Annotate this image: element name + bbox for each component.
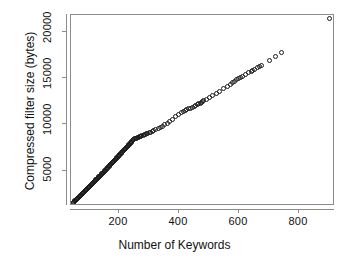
x-axis-title: Number of Keywords	[0, 238, 349, 252]
y-tick-mark	[62, 123, 66, 124]
plot-panel	[70, 14, 334, 205]
data-point	[259, 63, 264, 68]
x-tick-label: 800	[278, 215, 318, 227]
x-tick-label: 600	[218, 215, 258, 227]
data-point	[273, 54, 278, 59]
x-axis-line	[70, 209, 334, 210]
y-axis-line	[66, 14, 67, 205]
y-tick-label: 10000	[41, 109, 53, 135]
x-tick-label: 400	[158, 215, 198, 227]
data-points-layer	[71, 15, 333, 204]
data-point	[267, 58, 272, 63]
data-point	[327, 16, 332, 21]
x-tick-mark	[118, 209, 119, 213]
y-tick-label: 5000	[41, 156, 53, 182]
y-tick-label: 15000	[41, 63, 53, 89]
y-tick-label: 20000	[41, 17, 53, 43]
data-point	[279, 50, 284, 55]
x-tick-mark	[178, 209, 179, 213]
y-axis-title: Compressed filter size (bytes)	[23, 1, 37, 221]
x-tick-mark	[298, 209, 299, 213]
x-tick-label: 200	[98, 215, 138, 227]
y-tick-mark	[62, 170, 66, 171]
scatter-plot-figure: Compressed filter size (bytes) 500010000…	[0, 0, 349, 267]
y-tick-mark	[62, 77, 66, 78]
x-tick-mark	[238, 209, 239, 213]
y-tick-mark	[62, 31, 66, 32]
